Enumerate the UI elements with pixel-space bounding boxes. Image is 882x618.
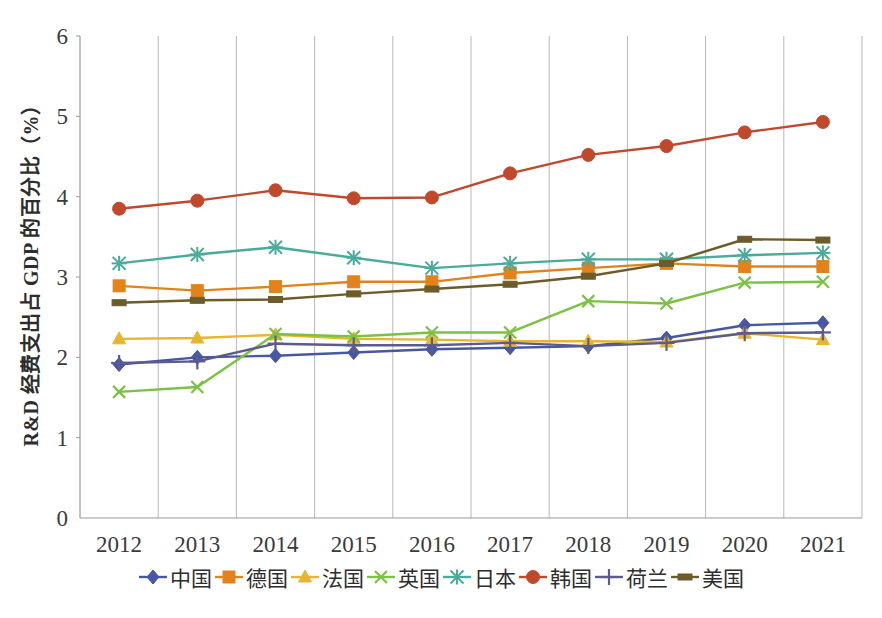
legend-label: 德国 [246, 562, 288, 592]
legend-label: 中国 [170, 562, 212, 592]
x-tick-label: 2019 [644, 532, 690, 556]
chart-legend: 中国德国法国英国日本韩国荷兰美国 [0, 556, 882, 598]
data-point-marker [147, 570, 159, 584]
data-point-marker [582, 148, 595, 161]
data-point-marker [738, 236, 752, 242]
data-point-marker [190, 247, 205, 262]
data-point-marker [425, 191, 438, 204]
data-point-marker [348, 276, 360, 288]
data-point-marker [817, 261, 829, 273]
legend-label: 英国 [398, 562, 440, 592]
data-point-marker [113, 280, 125, 292]
legend-item-法国[interactable]: 法国 [289, 562, 365, 592]
data-point-marker [223, 571, 235, 583]
legend-item-美国[interactable]: 美国 [669, 562, 745, 592]
dash-icon [670, 567, 700, 587]
data-point-marker [189, 353, 205, 369]
data-point-marker [527, 571, 540, 584]
data-point-marker [191, 285, 203, 297]
chart-container: R&D 经费支出占 GDP 的百分比（%） 6543210 2012201320… [0, 0, 882, 618]
x-tick-label: 2021 [800, 532, 846, 556]
y-tick-label: 3 [57, 265, 69, 290]
y-tick-labels: 6543210 [57, 24, 81, 531]
y-tick-label: 1 [57, 426, 69, 451]
legend-label: 韩国 [550, 562, 592, 592]
data-point-marker [816, 115, 829, 128]
legend-item-英国[interactable]: 英国 [365, 562, 441, 592]
data-point-marker [601, 569, 617, 585]
data-point-marker [450, 570, 465, 585]
x-tick-label: 2018 [565, 532, 611, 556]
data-point-marker [581, 252, 596, 267]
data-point-marker [112, 256, 127, 271]
data-point-marker [815, 245, 830, 260]
legend-item-中国[interactable]: 中国 [137, 562, 213, 592]
y-tick-label: 5 [57, 104, 69, 129]
x-tick-label: 2014 [253, 532, 300, 556]
triangle-icon [290, 567, 320, 587]
y-tick-label: 4 [57, 185, 69, 210]
plus-icon [594, 567, 624, 587]
x-tick-labels: 2012201320142015201620172018201920202021 [96, 532, 846, 556]
data-point-marker [581, 273, 595, 279]
legend-label: 美国 [702, 562, 744, 592]
data-point-marker [190, 297, 204, 303]
x-tick-label: 2017 [487, 532, 533, 556]
asterisk-icon [442, 567, 472, 587]
legend-item-荷兰[interactable]: 荷兰 [593, 562, 669, 592]
x-tick-label: 2012 [96, 532, 142, 556]
legend-item-德国[interactable]: 德国 [213, 562, 289, 592]
data-point-marker [347, 291, 361, 297]
legend-label: 法国 [322, 562, 364, 592]
circle-icon [518, 567, 548, 587]
diamond-icon [138, 567, 168, 587]
y-tick-label: 0 [57, 506, 69, 531]
legend-item-韩国[interactable]: 韩国 [517, 562, 593, 592]
data-point-marker [346, 250, 361, 265]
data-point-marker [816, 237, 830, 243]
data-point-marker [424, 261, 439, 276]
data-point-marker [678, 574, 692, 580]
data-point-marker [504, 167, 517, 180]
data-point-marker [738, 126, 751, 139]
data-point-marker [191, 194, 204, 207]
data-point-marker [503, 256, 518, 271]
y-tick-label: 6 [57, 24, 69, 49]
legend-item-日本[interactable]: 日本 [441, 562, 517, 592]
data-point-marker [425, 286, 439, 292]
legend-label: 荷兰 [626, 562, 668, 592]
legend-label: 日本 [474, 562, 516, 592]
data-point-marker [111, 355, 127, 371]
data-point-marker [660, 140, 673, 153]
data-point-marker [347, 192, 360, 205]
data-point-marker [660, 260, 674, 266]
data-point-marker [270, 281, 282, 293]
data-point-marker [269, 296, 283, 302]
data-point-marker [503, 281, 517, 287]
data-point-marker [737, 325, 753, 341]
x-icon [366, 567, 396, 587]
x-tick-label: 2015 [331, 532, 377, 556]
square-icon [214, 567, 244, 587]
data-point-marker [112, 300, 126, 306]
x-tick-label: 2013 [174, 532, 220, 556]
y-tick-label: 2 [57, 345, 69, 370]
data-point-marker [269, 184, 282, 197]
x-tick-label: 2016 [409, 532, 455, 556]
data-point-marker [113, 202, 126, 215]
data-point-marker [737, 248, 752, 263]
x-tick-label: 2020 [722, 532, 768, 556]
plot-area: 6543210 20122013201420152016201720182019… [0, 0, 882, 556]
data-point-marker [268, 240, 283, 255]
